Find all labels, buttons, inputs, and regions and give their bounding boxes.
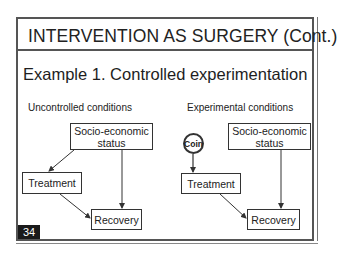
left-node-recovery: Recovery bbox=[91, 209, 142, 230]
frame-shadow-bottom bbox=[16, 243, 318, 244]
frame-shadow-right bbox=[317, 17, 318, 241]
left-node-treatment: Treatment bbox=[22, 172, 82, 194]
node-label-line2: status bbox=[97, 137, 125, 149]
slide-heading: Example 1. Controlled experimentation bbox=[23, 65, 307, 84]
node-label: Recovery bbox=[251, 214, 295, 226]
right-diagram-subtitle: Experimental conditions bbox=[187, 102, 293, 113]
node-label: Coin bbox=[184, 139, 203, 149]
page-number-badge: 34 bbox=[18, 225, 40, 239]
title-bar: INTERVENTION AS SURGERY (Cont.) bbox=[18, 19, 312, 51]
node-label-line2: status bbox=[255, 137, 283, 149]
node-label: Treatment bbox=[28, 177, 75, 189]
node-label: Recovery bbox=[94, 214, 138, 226]
right-node-recovery: Recovery bbox=[247, 209, 300, 230]
left-diagram-subtitle: Uncontrolled conditions bbox=[28, 102, 132, 113]
right-node-socio-economic-status: Socio-economic status bbox=[228, 123, 311, 150]
right-node-treatment: Treatment bbox=[181, 173, 241, 194]
right-node-coin: Coin bbox=[183, 133, 204, 154]
node-label-line1: Socio-economic bbox=[232, 125, 307, 137]
slide-title: INTERVENTION AS SURGERY (Cont.) bbox=[28, 26, 337, 47]
node-label-line1: Socio-economic bbox=[74, 125, 149, 137]
left-node-socio-economic-status: Socio-economic status bbox=[70, 123, 153, 150]
node-label: Treatment bbox=[187, 178, 234, 190]
